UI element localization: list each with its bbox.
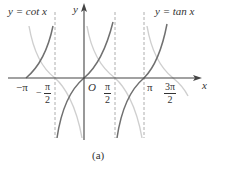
origin-label: O bbox=[88, 82, 96, 93]
axes bbox=[8, 10, 196, 140]
tan-cot-graph: y = cot x y = tan x y x O −π − π 2 π 2 π… bbox=[0, 0, 237, 179]
tan-curve bbox=[26, 22, 167, 138]
tick-half-pi: π 2 bbox=[104, 82, 111, 105]
x-axis-label: x bbox=[202, 80, 207, 91]
asymptote-lines bbox=[55, 12, 144, 138]
tick-neg-half-pi: − π 2 bbox=[44, 82, 51, 105]
y-axis-label: y bbox=[73, 4, 78, 15]
cot-label: y = cot x bbox=[8, 6, 47, 17]
tan-label: y = tan x bbox=[155, 6, 195, 17]
figure-caption: (a) bbox=[92, 150, 104, 161]
tick-three-half-pi: 3π 2 bbox=[164, 82, 176, 105]
tick-pi: π bbox=[147, 82, 153, 93]
tick-neg-pi: −π bbox=[16, 82, 28, 93]
